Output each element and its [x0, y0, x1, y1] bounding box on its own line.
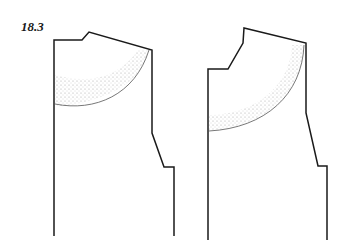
shaded-region-right [209, 45, 304, 130]
figure-diagram [0, 0, 341, 245]
pattern-piece-right [208, 28, 327, 240]
outline-left [54, 32, 174, 236]
pattern-piece-left [54, 32, 174, 236]
outline-right [208, 28, 327, 240]
